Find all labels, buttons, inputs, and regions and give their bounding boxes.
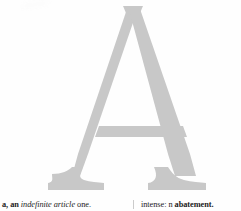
dropcap-letter-a <box>44 4 220 192</box>
dictionary-entry-left: a, an indefinite article one. <box>2 199 91 210</box>
right-lead-fragment: intense: <box>141 200 166 209</box>
dictionary-entry-right: intense: n abatement. <box>141 199 214 210</box>
scanned-dictionary-page: a, an indefinite article one. intense: n… <box>0 0 241 211</box>
left-headword: a, an <box>2 200 19 209</box>
right-headword: abatement. <box>175 200 214 209</box>
left-part-of-speech: indefinite article <box>21 200 75 209</box>
dictionary-entry-row: a, an indefinite article one. intense: n… <box>0 194 241 210</box>
left-definition: one. <box>77 200 91 209</box>
